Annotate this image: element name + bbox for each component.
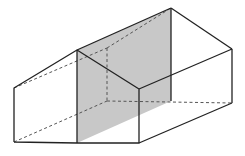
- prism-diagram: [0, 0, 245, 156]
